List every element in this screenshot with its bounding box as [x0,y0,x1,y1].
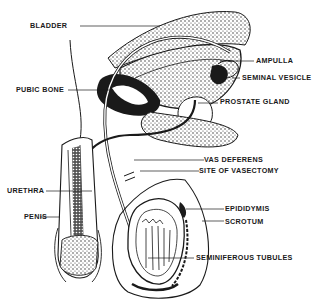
label-prostate-gland: PROSTATE GLAND [220,98,290,105]
label-penis: PENIS [24,213,47,220]
label-site-of-vasectomy: SITE OF VASECTOMY [199,167,279,174]
label-seminal-vesicle: SEMINAL VESICLE [242,74,311,81]
label-urethra: URETHRA [7,187,44,194]
label-pubic-bone: PUBIC BONE [16,86,64,93]
label-scrotum: SCROTUM [225,218,263,225]
label-epididymis: EPIDIDYMIS [225,205,270,212]
anatomy-diagram: BLADDER AMPULLA SEMINAL VESICLE PUBIC BO… [0,0,320,306]
label-ampulla: AMPULLA [256,57,293,64]
label-seminiferous-tubules: SEMINIFEROUS TUBULES [196,254,293,261]
label-bladder: BLADDER [30,22,67,29]
label-vas-deferens: VAS DEFERENS [204,156,263,163]
